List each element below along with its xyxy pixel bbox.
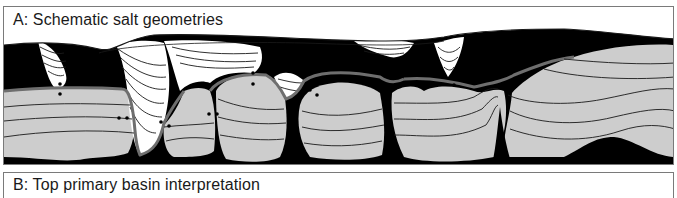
panel-a-title: A: Schematic salt geometries — [13, 11, 223, 29]
panel-b-title: B: Top primary basin interpretation — [13, 176, 260, 194]
salt-cross-section-diagram — [4, 7, 674, 165]
panel-b-top-primary-basin-interpretation: B: Top primary basin interpretation — [3, 172, 674, 198]
panel-a-schematic-salt-geometries: A: Schematic salt geometries — [3, 6, 674, 165]
